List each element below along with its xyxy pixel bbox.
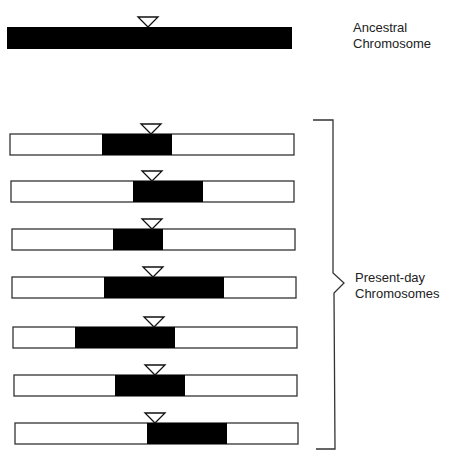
centromere-marker-icon (143, 267, 163, 277)
conserved-segment-4 (104, 277, 224, 298)
centromere-marker-icon (145, 365, 165, 375)
conserved-segment-1 (102, 134, 172, 155)
conserved-segment-2 (133, 181, 203, 202)
centromere-marker-icon (142, 219, 162, 229)
conserved-segment-7 (147, 423, 227, 444)
centromere-marker-icon (141, 124, 161, 134)
ancestral-chromosome-bar (7, 27, 292, 49)
conserved-segment-3 (113, 229, 163, 250)
curly-brace-icon (313, 120, 344, 449)
centromere-marker-icon (138, 17, 158, 27)
centromere-marker-icon (145, 413, 165, 423)
present-day-label-line1: Present-day (355, 270, 440, 286)
conserved-segment-5 (75, 327, 175, 348)
centromere-marker-icon (142, 171, 162, 181)
present-day-label-line2: Chromosomes (355, 286, 440, 302)
ancestral-label-line2: Chromosome (353, 36, 431, 52)
ancestral-label-line1: Ancestral (353, 20, 431, 36)
chromosome-diagram (0, 0, 453, 461)
centromere-marker-icon (144, 317, 164, 327)
conserved-segment-6 (115, 375, 185, 396)
present-day-label: Present-day Chromosomes (355, 270, 440, 302)
ancestral-label: Ancestral Chromosome (353, 20, 431, 52)
